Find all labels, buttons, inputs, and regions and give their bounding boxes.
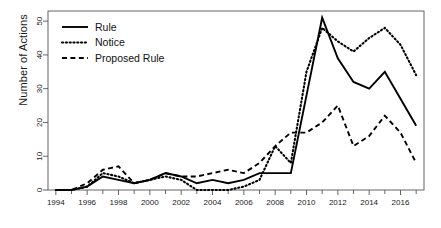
x-tick-label: 1998 bbox=[110, 198, 128, 207]
x-tick-label: 2006 bbox=[235, 198, 253, 207]
x-tick-label: 2010 bbox=[298, 198, 316, 207]
y-tick-label: 30 bbox=[35, 84, 44, 93]
x-tick-label: 2008 bbox=[266, 198, 284, 207]
x-tick-label: 1996 bbox=[78, 198, 96, 207]
x-tick-label: 2002 bbox=[172, 198, 190, 207]
x-tick-label: 1994 bbox=[47, 198, 65, 207]
y-tick-label: 20 bbox=[35, 117, 44, 126]
chart-figure: Number of Actions 0102030405019941996199… bbox=[0, 0, 441, 228]
y-tick-label: 0 bbox=[35, 187, 44, 192]
legend-label-proposed-rule: Proposed Rule bbox=[95, 52, 165, 64]
line-chart-plot: 0102030405019941996199820002002200420062… bbox=[0, 0, 441, 228]
legend-label-notice: Notice bbox=[95, 36, 125, 48]
y-tick-label: 10 bbox=[35, 151, 44, 160]
x-tick-label: 2000 bbox=[141, 198, 159, 207]
y-tick-label: 40 bbox=[35, 50, 44, 59]
legend-label-rule: Rule bbox=[95, 21, 117, 33]
x-tick-label: 2014 bbox=[360, 198, 378, 207]
x-tick-label: 2012 bbox=[329, 198, 347, 207]
y-tick-label: 50 bbox=[35, 16, 44, 25]
x-tick-label: 2016 bbox=[392, 198, 410, 207]
x-tick-label: 2004 bbox=[204, 198, 222, 207]
